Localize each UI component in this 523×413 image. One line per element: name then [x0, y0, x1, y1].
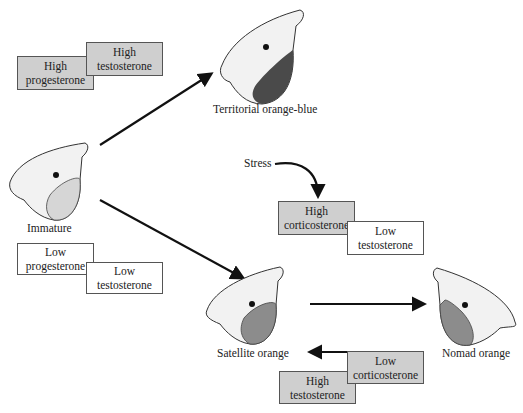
hormone-name: testosterone: [87, 59, 162, 73]
hormone-level: High: [279, 204, 354, 218]
hormone-level: Low: [348, 354, 423, 368]
arrow-stress: [275, 163, 318, 196]
hormone-name: testosterone: [280, 388, 355, 402]
hormone-level: Low: [18, 245, 93, 259]
hormone-box-high-testosterone-return: High testosterone: [279, 371, 356, 404]
lizard-head-satellite: [206, 267, 283, 344]
hormone-name: testosterone: [87, 278, 162, 292]
state-label-immature: Immature: [27, 222, 72, 234]
hormone-name: testosterone: [348, 238, 423, 252]
state-label-nomad: Nomad orange: [442, 347, 510, 359]
hormone-box-low-testosterone-stress: Low testosterone: [347, 221, 424, 255]
state-label-satellite: Satellite orange: [217, 347, 289, 359]
state-label-territorial: Territorial orange-blue: [213, 103, 317, 115]
hormone-level: High: [87, 45, 162, 59]
hormone-name: progesterone: [18, 259, 93, 273]
hormone-box-low-corticosterone: Low corticosterone: [347, 351, 424, 384]
hormone-box-low-testosterone: Low testosterone: [86, 262, 163, 294]
stress-label: Stress: [244, 157, 271, 169]
hormone-box-high-corticosterone: High corticosterone: [278, 201, 355, 235]
hormone-box-high-testosterone: High testosterone: [86, 42, 163, 76]
hormone-level: High: [18, 59, 93, 73]
lizard-head-immature: [10, 143, 88, 220]
lizard-head-territorial: [220, 10, 303, 104]
hormone-name: corticosterone: [348, 368, 423, 382]
hormone-level: Low: [87, 264, 162, 278]
hormone-name: corticosterone: [279, 218, 354, 232]
hormone-level: Low: [348, 224, 423, 238]
hormone-box-low-progesterone: Low progesterone: [17, 243, 94, 275]
lizard-head-nomad: [433, 268, 515, 345]
hormone-box-high-progesterone: High progesterone: [17, 56, 94, 90]
arrow-immature-to-territorial: [100, 74, 211, 145]
hormone-level: High: [280, 374, 355, 388]
hormone-name: progesterone: [18, 73, 93, 87]
